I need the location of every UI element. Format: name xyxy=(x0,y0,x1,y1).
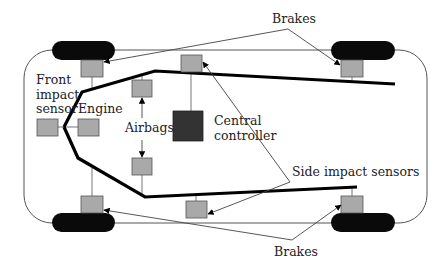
airbags-label: Airbags xyxy=(124,120,174,135)
brakes-top-label: Brakes xyxy=(272,11,316,26)
brake-box-front-left xyxy=(81,60,103,77)
vehicle-safety-diagram: Brakes Brakes Front impact sensor Engine… xyxy=(0,0,448,270)
wheel-front-left xyxy=(52,41,115,60)
central-controller-box xyxy=(173,111,203,141)
brakes-bottom-label: Brakes xyxy=(274,244,318,259)
airbag-box-upper xyxy=(132,80,152,97)
brake-box-rear-right xyxy=(341,196,363,213)
central-controller-label-line1: Central xyxy=(214,113,261,128)
brake-box-front-right xyxy=(341,60,363,77)
airbag-box-lower xyxy=(132,158,152,175)
side-impact-sensor-upper xyxy=(181,55,202,72)
central-controller-label-line2: controller xyxy=(214,128,276,143)
side-sensor-pointer-lower xyxy=(208,182,290,214)
front-impact-label-line3: sensor xyxy=(36,101,78,116)
front-impact-sensor-box xyxy=(37,119,58,136)
engine-label: Engine xyxy=(78,101,123,116)
engine-box xyxy=(78,119,99,136)
brake-box-rear-left xyxy=(81,196,103,213)
bus-line-lower xyxy=(64,127,357,197)
wheel-rear-left xyxy=(52,213,115,232)
side-impact-sensors-label: Side impact sensors xyxy=(292,164,419,179)
front-impact-label-line2: impact xyxy=(36,87,79,102)
wheel-rear-right xyxy=(331,213,395,232)
wheel-front-right xyxy=(331,41,395,60)
front-impact-label-line1: Front xyxy=(36,72,71,87)
side-impact-sensor-lower xyxy=(186,201,207,218)
